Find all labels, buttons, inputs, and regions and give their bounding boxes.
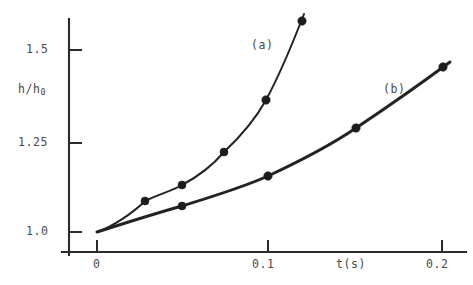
y-tick-label-1.0: 1.0: [26, 226, 49, 238]
series-label-a: (a): [251, 40, 274, 52]
datapoint-a-4: [262, 96, 270, 104]
datapoint-a-2: [178, 181, 186, 189]
x-tick-label-0.2: 0.2: [426, 259, 449, 271]
chart-figure: h/h0 1.5 1.25 1.0 0 0.1 0.2 t(s) (a) (b): [0, 0, 473, 285]
datapoint-a-5: [298, 17, 306, 25]
datapoint-b-4: [439, 63, 447, 71]
x-tick-label-0.1: 0.1: [252, 259, 275, 271]
datapoint-b-1: [178, 202, 186, 210]
y-axis-title-main: h/h: [18, 82, 41, 96]
datapoint-b-3: [352, 124, 360, 132]
x-tick-label-0: 0: [93, 259, 101, 271]
y-tick-label-1.25: 1.25: [18, 137, 48, 149]
y-tick-label-1.5: 1.5: [26, 44, 49, 56]
plot-canvas: [0, 0, 473, 285]
y-axis-title: h/h0: [18, 84, 46, 97]
y-axis-title-subscript: 0: [41, 87, 46, 97]
series-label-b: (b): [383, 84, 406, 96]
datapoint-a-3: [220, 148, 228, 156]
x-axis-title: t(s): [336, 259, 366, 271]
datapoint-a-1: [141, 197, 149, 205]
datapoint-b-2: [264, 172, 272, 180]
